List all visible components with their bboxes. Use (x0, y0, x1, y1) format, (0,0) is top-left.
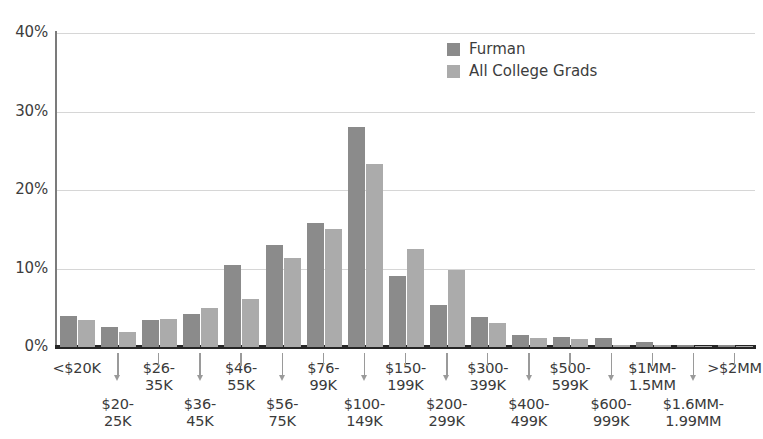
x-axis-label-1: $20-25K (81, 396, 155, 430)
x-axis-label-line1: <$20K (40, 360, 114, 377)
x-axis-label-line1: $1.6MM- (656, 396, 730, 413)
bar-all-college-grads (530, 338, 547, 347)
bar-group (101, 33, 136, 347)
x-axis-label-line1: $200- (410, 396, 484, 413)
x-axis-label-line2: 25K (81, 413, 155, 430)
x-axis-label-line1: >$2MM (697, 360, 763, 377)
bar-group (389, 33, 424, 347)
bar-all-college-grads (201, 308, 218, 347)
y-axis-tick-20: 20% (0, 180, 48, 198)
legend-label-all-college-grads: All College Grads (469, 62, 597, 80)
bar-group (595, 33, 630, 347)
bar-all-college-grads (325, 229, 342, 347)
bar-all-college-grads (160, 319, 177, 347)
x-axis-tick-16 (734, 353, 735, 366)
x-axis-label-line2: 199K (369, 377, 443, 394)
x-axis-label-15: $1.6MM-1.99MM (656, 396, 730, 430)
legend-label-furman: Furman (469, 40, 526, 58)
bar-all-college-grads (366, 164, 383, 347)
x-axis-label-line2: 35K (122, 377, 196, 394)
x-axis-label-line1: $36- (163, 396, 237, 413)
bar-group (183, 33, 218, 347)
x-axis-label-line2: 45K (163, 413, 237, 430)
income-distribution-bar-chart: 40%30%20%10%0% Furman All College Grads … (0, 0, 763, 439)
x-axis-label-3: $36-45K (163, 396, 237, 430)
bar-furman (266, 245, 283, 347)
x-axis-label-line1: $56- (245, 396, 319, 413)
bar-group (142, 33, 177, 347)
bar-group (677, 33, 712, 347)
bar-furman (389, 276, 406, 347)
chart-legend: Furman All College Grads (447, 38, 597, 82)
x-axis-tick-14 (652, 353, 653, 366)
x-axis-label-line2: 1.99MM (656, 413, 730, 430)
bar-all-college-grads (407, 249, 424, 347)
bar-all-college-grads (571, 339, 588, 347)
bar-furman (142, 320, 159, 347)
bar-furman (471, 317, 488, 347)
y-axis-tick-40: 40% (0, 23, 48, 41)
bar-furman (224, 265, 241, 347)
x-axis-label-11: $400-499K (492, 396, 566, 430)
x-axis-tick-8 (405, 353, 406, 366)
bar-all-college-grads (284, 258, 301, 347)
x-axis-label-16: >$2MM (697, 360, 763, 377)
x-axis-label-line2: 149K (327, 413, 401, 430)
bar-all-college-grads (613, 345, 630, 347)
bar-furman (307, 223, 324, 347)
bar-furman (595, 338, 612, 347)
x-axis-label-line1: $600- (574, 396, 648, 413)
x-axis-label-line2: 1.5MM (615, 377, 689, 394)
bar-all-college-grads (489, 323, 506, 347)
bar-furman (101, 327, 118, 347)
plot-bars (56, 33, 755, 347)
bar-furman (348, 127, 365, 347)
bar-group (224, 33, 259, 347)
x-axis-label-line2: 599K (533, 377, 607, 394)
x-axis-tick-10 (487, 353, 488, 366)
bar-all-college-grads (736, 346, 753, 348)
bar-group (266, 33, 301, 347)
x-axis-tick-6 (323, 353, 324, 366)
x-axis-label-13: $600-999K (574, 396, 648, 430)
x-axis-label-line1: $100- (327, 396, 401, 413)
bar-furman (636, 342, 653, 347)
bar-group (60, 33, 95, 347)
bar-furman (677, 345, 694, 347)
bar-furman (430, 305, 447, 347)
legend-item-furman: Furman (447, 38, 597, 60)
x-axis-label-line2: 299K (410, 413, 484, 430)
x-axis-tick-2 (158, 353, 159, 366)
y-axis-tick-0: 0% (0, 337, 48, 355)
x-axis-label-line2: 75K (245, 413, 319, 430)
bar-all-college-grads (119, 332, 136, 347)
bar-all-college-grads (242, 299, 259, 347)
x-axis-label-line2: 399K (451, 377, 525, 394)
bar-all-college-grads (78, 320, 95, 347)
bar-furman (553, 337, 570, 347)
bar-group (718, 33, 753, 347)
x-axis-label-7: $100-149K (327, 396, 401, 430)
bar-all-college-grads (448, 270, 465, 347)
x-axis-label-line2: 999K (574, 413, 648, 430)
bar-furman (183, 314, 200, 347)
bar-all-college-grads (695, 346, 712, 348)
x-axis-label-line1: $20- (81, 396, 155, 413)
bar-furman (512, 335, 529, 347)
x-axis-label-line1: $400- (492, 396, 566, 413)
y-axis-tick-10: 10% (0, 259, 48, 277)
x-axis-label-5: $56-75K (245, 396, 319, 430)
x-axis-tick-4 (240, 353, 241, 366)
bar-all-college-grads (654, 345, 671, 347)
x-axis-label-0: <$20K (40, 360, 114, 377)
x-axis-label-9: $200-299K (410, 396, 484, 430)
x-axis-label-line2: 99K (286, 377, 360, 394)
legend-swatch-furman (447, 43, 460, 56)
legend-item-all-college-grads: All College Grads (447, 60, 597, 82)
legend-swatch-all-college-grads (447, 65, 460, 78)
bar-group (307, 33, 342, 347)
x-axis-label-line2: 499K (492, 413, 566, 430)
x-axis-label-line2: 55K (204, 377, 278, 394)
x-axis-tick-12 (569, 353, 570, 366)
bar-furman (60, 316, 77, 347)
